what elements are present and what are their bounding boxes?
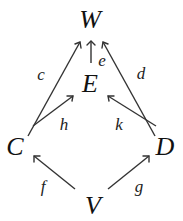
label-d: d: [137, 64, 146, 83]
edge-d: [102, 42, 155, 136]
node-c: C: [6, 132, 24, 161]
edge-e: [87, 41, 95, 63]
label-e: e: [98, 51, 106, 70]
node-e: E: [81, 69, 98, 98]
label-k: k: [115, 115, 123, 134]
node-d: D: [155, 132, 175, 161]
edge-c: [28, 42, 81, 136]
label-c: c: [37, 65, 45, 84]
node-w: W: [79, 5, 103, 34]
label-g: g: [135, 177, 144, 196]
commutative-diagram: W E C D V c e d h k f g: [0, 0, 183, 221]
label-h: h: [60, 115, 69, 134]
node-v: V: [85, 191, 104, 220]
label-f: f: [41, 177, 48, 196]
